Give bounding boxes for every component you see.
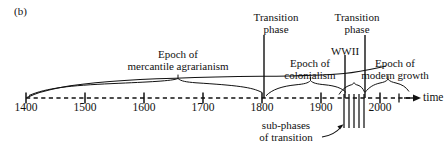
- axis-tick-label-1700: 1700: [192, 101, 215, 114]
- brace-sub-phases: [339, 83, 365, 95]
- axis-tick-label-1600: 1600: [133, 101, 156, 114]
- axis-title-time: time: [423, 91, 443, 104]
- sub-phases-pointer-arrow: [322, 124, 344, 137]
- epoch-mercantile-agrarianism-line1: Epoch of: [158, 48, 198, 60]
- transition-phase-1-line2: phase: [263, 23, 288, 35]
- axis-tick-label-1400: 1400: [15, 101, 38, 114]
- epoch-mercantile-agrarianism-line2: mercantile agrarianism: [127, 60, 228, 72]
- transition-phase-2-line2: phase: [344, 23, 369, 35]
- sub-phases-line1: sub-phases: [262, 119, 310, 131]
- panel-tag: (b): [14, 5, 27, 17]
- sub-phases-line2: of transition: [259, 131, 312, 143]
- sub-phases-arrow-head: [337, 124, 343, 129]
- axis-arrow-head: [413, 95, 421, 102]
- axis-tick-label-1500: 1500: [74, 101, 97, 114]
- wwii-label: WWII: [331, 45, 359, 57]
- epoch-modern-growth-line2: modern growth: [361, 69, 429, 81]
- axis-tick-label-2000: 2000: [369, 101, 392, 114]
- epoch-colonialism-line1: Epoch of: [290, 57, 330, 69]
- axis-tick-label-1900: 1900: [310, 101, 333, 114]
- axis-tick-label-1800: 1800: [251, 101, 274, 114]
- transition-phase-2-line1: Transition: [335, 11, 380, 23]
- transition-phase-1-line1: Transition: [254, 11, 299, 23]
- epoch-modern-growth-line1: Epoch of: [375, 57, 415, 69]
- brace-mercantile-agrarianism: [29, 75, 262, 96]
- epoch-colonialism-line2: colonialism: [284, 69, 335, 81]
- figure-panel-b: (b) 1400 1500 1600 1700 1800 1900 2000 t…: [0, 0, 447, 146]
- sub-phase-tick-lines: [344, 94, 364, 128]
